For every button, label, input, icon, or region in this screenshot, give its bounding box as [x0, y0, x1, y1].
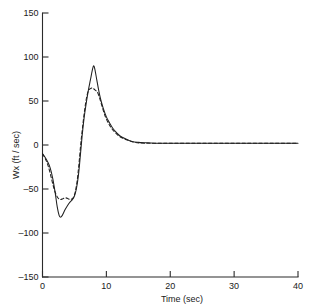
y-axis-title: Wx (ft / sec)	[11, 131, 21, 179]
x-tick-label: 20	[165, 281, 175, 291]
x-axis-title: Time (sec)	[161, 294, 203, 304]
x-tick-label: 10	[101, 281, 111, 291]
x-tick-label: 30	[229, 281, 239, 291]
chart-figure: –150–100–50050100150 010203040 Time (sec…	[0, 0, 311, 308]
y-tick-label: –150	[18, 272, 38, 282]
x-axis-ticks	[43, 271, 299, 277]
y-tick-label: 50	[28, 96, 38, 106]
y-tick-label: –50	[23, 184, 38, 194]
y-tick-label: –100	[18, 228, 38, 238]
y-tick-label: 150	[23, 8, 38, 18]
y-tick-label: 100	[23, 52, 38, 62]
x-tick-label: 40	[293, 281, 303, 291]
y-axis-ticks	[43, 13, 49, 277]
y-tick-label: 0	[33, 140, 38, 150]
x-tick-label: 0	[40, 281, 45, 291]
x-axis-tick-labels: 010203040	[40, 281, 303, 291]
line-chart: –150–100–50050100150 010203040 Time (sec…	[0, 0, 311, 308]
data-series-dashed	[43, 88, 299, 200]
y-axis-tick-labels: –150–100–50050100150	[18, 8, 38, 282]
